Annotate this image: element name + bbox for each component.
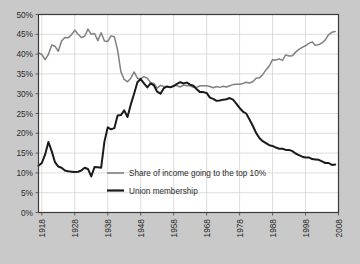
y-tick-label: 35% xyxy=(16,69,33,79)
x-tick-label: 2008 xyxy=(334,219,344,238)
income-union-line-chart: 0%5%10%15%20%25%30%35%40%45%50% 19181928… xyxy=(0,0,360,264)
x-tick-label: 1948 xyxy=(136,219,146,238)
x-tick-label: 1938 xyxy=(103,219,113,238)
y-tick-label: 40% xyxy=(16,49,33,59)
y-tick-label: 5% xyxy=(21,188,34,198)
y-tick-label: 20% xyxy=(16,128,33,138)
x-tick-label: 1998 xyxy=(301,219,311,238)
y-tick-label: 45% xyxy=(16,29,33,39)
legend-label-income-share: Share of income going to the top 10% xyxy=(129,169,266,178)
x-tick-label: 1978 xyxy=(235,219,245,238)
x-tick-label: 1918 xyxy=(37,219,47,238)
x-tick-label: 1968 xyxy=(202,219,212,238)
x-tick-label: 1928 xyxy=(70,219,80,238)
x-tick-label: 1958 xyxy=(169,219,179,238)
legend-label-union-membership: Union membership xyxy=(129,187,198,196)
y-tick-label: 10% xyxy=(16,168,33,178)
y-tick-label: 25% xyxy=(16,109,33,119)
y-tick-label: 50% xyxy=(16,10,33,20)
chart-figure: 0%5%10%15%20%25%30%35%40%45%50% 19181928… xyxy=(0,0,360,264)
y-tick-label: 15% xyxy=(16,148,33,158)
x-tick-label: 1988 xyxy=(268,219,278,238)
y-tick-label: 30% xyxy=(16,89,33,99)
y-tick-label: 0% xyxy=(21,208,34,218)
